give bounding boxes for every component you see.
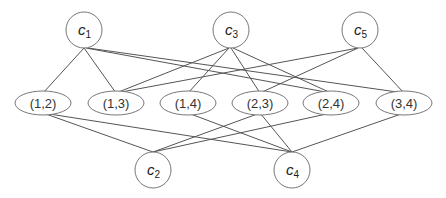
- node-pair-2-4: (2,4): [303, 91, 359, 115]
- svg-text:(1,4): (1,4): [175, 96, 202, 111]
- edge-c1-p13: [84, 48, 116, 93]
- node-pair-1-3: (1,3): [88, 91, 144, 115]
- node-pair-3-4: (3,4): [376, 91, 432, 115]
- svg-text:(1,3): (1,3): [103, 96, 130, 111]
- node-c5: c5: [342, 12, 378, 48]
- svg-text:(2,4): (2,4): [318, 96, 345, 111]
- edge-p24-c2: [153, 113, 331, 152]
- edge-c5-p34: [362, 48, 404, 93]
- edge-p34-c4: [292, 113, 404, 152]
- svg-text:(2,3): (2,3): [247, 96, 274, 111]
- node-pair-1-4: (1,4): [160, 91, 216, 115]
- node-pair-1-2: (1,2): [15, 91, 71, 115]
- svg-text:(1,2): (1,2): [30, 96, 57, 111]
- edge-c5-p23: [260, 48, 358, 93]
- node-pair-2-3: (2,3): [232, 91, 288, 115]
- graph-diagram: c1 c3 c5 (1,2) (1,3) (1,4) (2,3) (2,4) (…: [0, 0, 446, 198]
- edge-p12-c4: [43, 113, 292, 152]
- edge-c3-p14: [188, 48, 229, 93]
- edge-p12-c2: [43, 113, 153, 152]
- node-c2: c2: [135, 152, 171, 188]
- node-c4: c4: [274, 152, 310, 188]
- edge-c1-p12: [43, 48, 84, 93]
- svg-text:(3,4): (3,4): [391, 96, 418, 111]
- node-c3: c3: [213, 12, 249, 48]
- edge-c5-p13: [116, 48, 358, 93]
- node-c1: c1: [66, 12, 102, 48]
